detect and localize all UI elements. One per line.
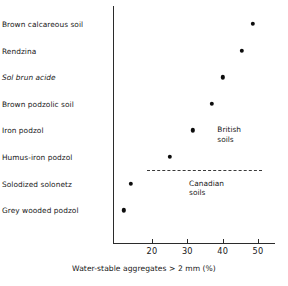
category-label: Brown calcareous soil <box>2 20 110 29</box>
annotation-british-soils: Britishsoils <box>217 125 241 144</box>
x-axis-line <box>113 243 275 244</box>
x-tick-mark <box>223 239 224 244</box>
data-point <box>129 181 133 185</box>
category-label: Iron podzol <box>2 126 110 135</box>
x-tick-label: 40 <box>217 246 228 256</box>
x-tick-mark <box>152 239 153 244</box>
x-axis-title: Water-stable aggregates > 2 mm (%) <box>0 264 288 274</box>
data-point <box>220 75 224 79</box>
annotation-line: soils <box>217 135 241 145</box>
category-label: Rendzina <box>2 46 110 55</box>
x-tick-label: 30 <box>182 246 193 256</box>
x-tick-label: 20 <box>147 246 158 256</box>
data-point <box>122 208 126 212</box>
annotation-line: soils <box>189 188 224 198</box>
plot-area: 20304050 BritishsoilsCanadiansoils <box>113 6 288 244</box>
data-point <box>210 102 214 106</box>
category-label: Grey wooded podzol <box>2 206 110 215</box>
annotation-canadian-soils: Canadiansoils <box>189 179 224 198</box>
annotation-line: Canadian <box>189 179 224 189</box>
data-point <box>240 48 244 52</box>
category-label: Brown podzolic soil <box>2 99 110 108</box>
canadian-british-divider <box>147 170 262 171</box>
x-tick-mark <box>187 239 188 244</box>
category-label: Humus-iron podzol <box>2 153 110 162</box>
category-axis-labels: Brown calcareous soilRendzinaSol brun ac… <box>0 0 110 286</box>
chart-figure: Brown calcareous soilRendzinaSol brun ac… <box>0 0 288 286</box>
data-point <box>190 128 194 132</box>
x-tick-mark <box>258 239 259 244</box>
y-axis-line <box>113 6 114 244</box>
data-point <box>250 22 254 26</box>
data-point <box>167 155 171 159</box>
category-label: Solodized solonetz <box>2 179 110 188</box>
category-label: Sol brun acide <box>2 73 110 82</box>
x-tick-label: 50 <box>253 246 264 256</box>
annotation-line: British <box>217 125 241 135</box>
